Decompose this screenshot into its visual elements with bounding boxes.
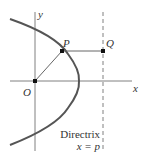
x-axis-label: x — [132, 82, 138, 94]
directrix-title: Directrix — [60, 128, 100, 140]
point-p — [60, 49, 64, 53]
segment-op — [35, 51, 62, 81]
point-q-label: Q — [106, 37, 114, 49]
point-p-label: P — [62, 37, 70, 49]
origin-label: O — [23, 86, 31, 98]
point-o — [33, 79, 37, 83]
parabola-diagram: y x O P Q Directrix x = p — [0, 0, 145, 159]
point-q — [101, 49, 105, 53]
directrix-equation: x = p — [76, 140, 101, 152]
y-axis-label: y — [37, 8, 43, 20]
